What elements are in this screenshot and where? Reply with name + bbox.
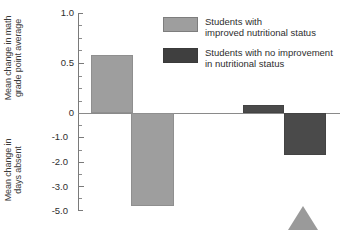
tick-mark-top-0.5	[79, 63, 84, 64]
tick-mark-top-minor-2	[79, 38, 82, 39]
tick-mark-top-minor-4	[79, 76, 82, 77]
chart-container: Mean change in math grade point average …	[0, 0, 348, 235]
legend-swatch-improved	[163, 17, 198, 32]
axis-cap-bottom	[78, 210, 83, 211]
tick-mark-top-minor-3	[79, 50, 82, 51]
axis-cap-top	[78, 13, 83, 14]
tick-mark-bottom--2.0	[79, 162, 84, 163]
legend-item-no-improvement: Students with no improvement in nutritio…	[163, 47, 343, 69]
tick-mark-bottom--1.0	[79, 137, 84, 138]
tick-label-top-0: 0	[40, 108, 74, 118]
tick-mark-top-minor-1	[79, 25, 82, 26]
tick-label-bottom--1.0: -1.0	[34, 132, 68, 142]
triangle-watermark-icon	[288, 206, 318, 230]
tick-label-top-1.0: 1.0	[40, 8, 74, 18]
bar-gpa-improved	[91, 55, 133, 113]
tick-mark-bottom-minor-3	[79, 174, 82, 175]
tick-mark-top-minor-6	[79, 101, 82, 102]
bar-absence-no-improvement	[284, 113, 326, 155]
tick-label-top-0.5: 0.5	[40, 58, 74, 68]
tick-mark-bottom-minor-1	[79, 125, 82, 126]
tick-label-bottom--2.0: -2.0	[34, 157, 68, 167]
legend-swatch-no-improvement	[163, 48, 198, 63]
legend-item-improved: Students with improved nutritional statu…	[163, 16, 343, 38]
legend-label-improved: Students with improved nutritional statu…	[205, 16, 316, 38]
tick-mark-bottom-minor-2	[79, 150, 82, 151]
y-axis-title-top: Mean change in math grade point average	[3, 6, 23, 110]
y-axis-title-bottom: Mean change in days absent	[3, 118, 23, 222]
tick-label-bottom--5.0: -5.0	[34, 206, 68, 216]
bar-absence-improved	[131, 113, 174, 206]
tick-label-bottom--3.0: -3.0	[34, 182, 68, 192]
bar-gpa-no-improvement	[243, 105, 284, 113]
legend: Students with improved nutritional statu…	[163, 16, 343, 78]
tick-mark-bottom--3.0	[79, 186, 84, 187]
tick-mark-top-minor-5	[79, 88, 82, 89]
tick-mark-bottom-minor-4	[79, 198, 82, 199]
legend-label-no-improvement: Students with no improvement in nutritio…	[205, 47, 333, 69]
